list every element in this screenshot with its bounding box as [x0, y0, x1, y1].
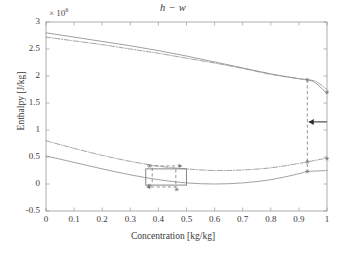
arrowhead-left-pointing-arrow: [309, 119, 314, 125]
marker-marker-box-bottom-mid: [175, 188, 179, 192]
chart-figure: h − w × 106 Enthalpy [J/kg] Concentratio…: [0, 0, 346, 254]
series-vapour-enthalpy-dashdot: [46, 37, 327, 89]
series-liquid-enthalpy-dashdot: [46, 141, 327, 171]
arrowhead-box-arrow-top-right: [179, 164, 183, 168]
series-vapour-enthalpy-solid: [46, 33, 327, 94]
plot-canvas: [0, 0, 346, 254]
